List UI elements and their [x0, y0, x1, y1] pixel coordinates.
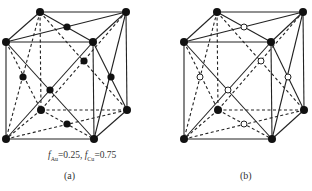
corner-atom — [89, 38, 97, 46]
face-center-atom — [80, 57, 87, 64]
corner-atom — [214, 106, 222, 114]
corner-atom — [123, 106, 131, 114]
face-center-atom-hollow — [197, 74, 203, 80]
face-center-atom-hollow — [258, 58, 264, 64]
corner-atom — [299, 8, 307, 16]
corner-atom — [37, 106, 45, 114]
panel-b-label: (b) — [240, 170, 252, 181]
fraction-au-subscript: Au — [51, 156, 58, 162]
corner-atom — [268, 135, 276, 143]
corner-atom — [300, 106, 308, 114]
panel-a-label: (a) — [64, 170, 75, 181]
face-center-atom — [19, 73, 26, 80]
corner-atom — [267, 38, 275, 46]
face-center-atom-hollow — [241, 121, 247, 127]
face-center-atom — [63, 120, 70, 127]
corner-atom — [180, 38, 188, 46]
face-center-atom-hollow — [285, 74, 291, 80]
corner-atom — [2, 135, 10, 143]
face-center-atom-hollow — [225, 87, 231, 93]
crystal-structure-diagram — [0, 0, 312, 191]
fraction-au-value: =0.25, — [58, 150, 85, 160]
corner-atom — [90, 135, 98, 143]
corner-atom — [36, 8, 44, 16]
face-center-atom — [107, 73, 114, 80]
fraction-cu-value: =0.75 — [94, 150, 116, 160]
face-center-atom-hollow — [241, 24, 247, 30]
corner-atom — [122, 8, 130, 16]
corner-atom — [180, 135, 188, 143]
face-center-atom — [63, 23, 70, 30]
composition-fractions: fAu=0.25, fCu=0.75 — [48, 150, 116, 162]
corner-atom — [2, 38, 10, 46]
corner-atom — [213, 8, 221, 16]
face-center-atom — [46, 86, 53, 93]
